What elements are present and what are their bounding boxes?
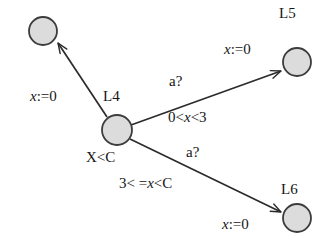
edge-l4-to-topleft [58, 43, 107, 117]
node-l4[interactable] [102, 115, 132, 145]
assignment-label-l4-l6: x:=0 [222, 217, 249, 232]
guard-label-l4-l6: 3< =x<C [119, 176, 172, 191]
event-label-l4-l6: a? [186, 145, 199, 160]
event-label-l4-l5: a? [169, 74, 182, 89]
assignment-text: :=0 [229, 216, 249, 232]
variable-x: x [184, 109, 191, 125]
variable-x: x [222, 216, 229, 232]
node-l5[interactable] [283, 48, 311, 76]
guard-upper-bound: <C [154, 175, 172, 191]
guard-lower-bound: 3< = [119, 175, 147, 191]
assignment-label-l4-l5: x:=0 [224, 42, 251, 57]
variable-x: x [147, 175, 154, 191]
guard-lower-bound: 0< [168, 109, 184, 125]
node-label-l5: L5 [279, 6, 296, 21]
node-label-l6: L6 [281, 182, 298, 197]
diagram-canvas [0, 0, 324, 246]
assignment-label-l4-topleft: x:=0 [30, 89, 57, 104]
variable-x: x [30, 88, 37, 104]
guard-upper-bound: <3 [191, 109, 207, 125]
node-label-l4: L4 [103, 89, 120, 104]
node-topleft[interactable] [29, 17, 57, 45]
node-l6[interactable] [283, 204, 311, 232]
automaton-diagram: L4 L5 L6 X<C x:=0 a? 0<x<3 x:=0 a? 3< =x… [0, 0, 324, 246]
variable-x: x [224, 41, 231, 57]
invariant-label-l4: X<C [86, 150, 115, 165]
assignment-text: :=0 [231, 41, 251, 57]
guard-label-l4-l5: 0<x<3 [168, 110, 207, 125]
assignment-text: :=0 [37, 88, 57, 104]
